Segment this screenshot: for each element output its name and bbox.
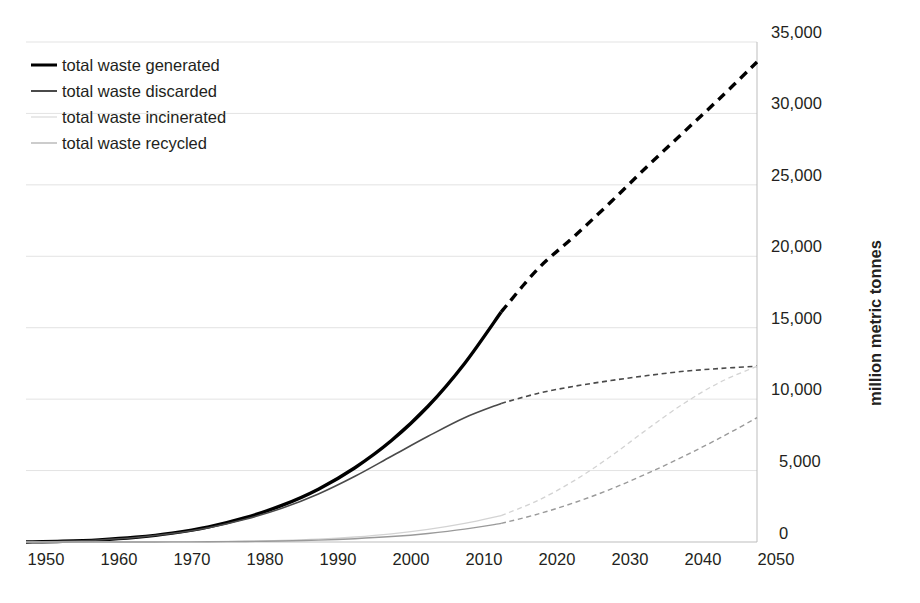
legend-item-generated: total waste generated	[30, 52, 290, 78]
legend-swatch-incinerated	[30, 111, 58, 123]
series-total-waste-generated-projection	[501, 62, 757, 312]
legend-label-recycled: total waste recycled	[62, 135, 207, 152]
figure-caption	[16, 592, 916, 603]
y-tick-25000: 25,000	[771, 166, 822, 185]
legend-label-generated: total waste generated	[62, 57, 220, 74]
y-tick-30000: 30,000	[771, 94, 822, 113]
x-tick-2050: 2050	[730, 550, 822, 569]
legend-item-incinerated: total waste incinerated	[30, 104, 290, 130]
legend-swatch-recycled	[30, 137, 58, 149]
y-tick-15000: 15,000	[771, 309, 822, 328]
y-tick-5000: 5,000	[779, 452, 821, 471]
series-total-waste-incinerated-projection	[501, 366, 757, 515]
series-total-waste-incinerated-historical	[26, 516, 501, 542]
series-total-waste-generated-historical	[26, 312, 501, 542]
legend-label-incinerated: total waste incinerated	[62, 109, 226, 126]
y-axis-title: million metric tonnes	[866, 218, 885, 428]
y-tick-10000: 10,000	[771, 380, 822, 399]
y-tick-35000: 35,000	[771, 23, 822, 42]
legend-swatch-discarded	[30, 85, 58, 97]
legend-item-recycled: total waste recycled	[30, 130, 290, 156]
legend-label-discarded: total waste discarded	[62, 83, 217, 100]
y-tick-20000: 20,000	[771, 237, 822, 256]
legend-item-discarded: total waste discarded	[30, 78, 290, 104]
series-total-waste-discarded-historical	[26, 403, 501, 542]
series-total-waste-discarded-projection	[501, 366, 757, 403]
chart-figure: total waste generated total waste discar…	[0, 0, 920, 603]
chart-legend: total waste generated total waste discar…	[30, 52, 290, 156]
legend-swatch-generated	[30, 59, 58, 71]
y-tick-0: 0	[779, 524, 788, 543]
